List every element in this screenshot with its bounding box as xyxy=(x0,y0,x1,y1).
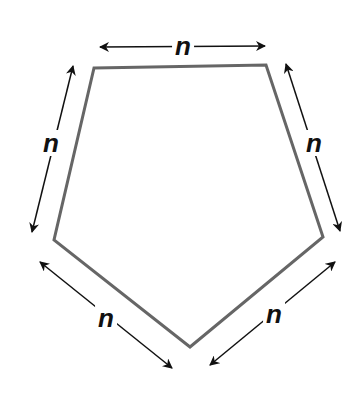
side-label-upper-right: n xyxy=(303,130,325,156)
side-label-lower-right: n xyxy=(263,301,285,327)
side-label-lower-left: n xyxy=(95,305,117,331)
pentagon-diagram: n n n n n xyxy=(0,0,362,393)
side-label-top: n xyxy=(172,33,194,59)
side-label-upper-left: n xyxy=(40,130,62,156)
